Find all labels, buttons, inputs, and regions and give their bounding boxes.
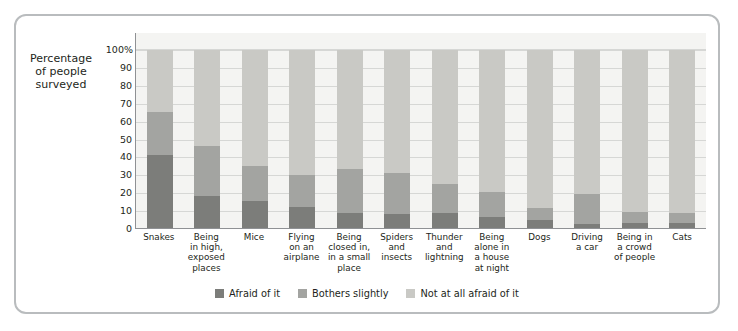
x-axis-label-mice: Mice [230,232,278,273]
y-axis-tick-labels: 100%9080706050403020100 [102,33,132,229]
stacked-bar[interactable] [669,50,695,228]
bar-segment [337,169,363,213]
bar-segment [147,50,173,112]
bar-segment [622,50,648,212]
bar-segment [242,201,268,228]
stacked-bar[interactable] [289,50,315,228]
bar-segment [384,214,410,228]
bar-segment [527,50,553,208]
stacked-bar[interactable] [527,50,553,228]
bar-segment [432,50,458,184]
y-axis-title-line-3: surveyed [22,78,100,91]
x-axis-label-line: in high, [184,242,230,252]
y-axis-tick-100pct: 100% [99,45,133,55]
stacked-bar[interactable] [384,50,410,228]
x-axis-label-driving-a-car: Drivinga car [563,232,611,273]
bar-segment [337,213,363,228]
x-axis-label-line: alone in [469,242,515,252]
bar-segment [384,173,410,214]
plot-wrapper: 100%9080706050403020100 [102,33,706,229]
legend-swatch-not-afraid [406,289,415,298]
bar-segment [289,175,315,207]
bar-segment [574,194,600,224]
stacked-bar[interactable] [194,50,220,228]
x-axis-label-line: Being [326,232,372,242]
y-axis-tick-30: 30 [102,170,132,180]
bar-segment [242,50,268,166]
bar-segment [289,50,315,175]
y-axis-tick-90: 90 [102,63,132,73]
bar-segment [527,208,553,220]
stacked-bar[interactable] [432,50,458,228]
x-axis-label-line: Snakes [136,232,182,242]
bar-slot [374,50,422,228]
bar-slot [184,50,232,228]
legend-item[interactable]: Bothers slightly [298,288,388,299]
bar-segment [574,224,600,228]
stacked-bar[interactable] [337,50,363,228]
x-axis-label-line: insects [374,252,420,262]
y-axis-tick-20: 20 [102,188,132,198]
bar-slot [516,50,564,228]
bar-slot [326,50,374,228]
x-axis-label-line: lightning [421,252,467,262]
bar-segment [622,223,648,228]
legend-label: Bothers slightly [312,288,388,299]
stacked-bar[interactable] [479,50,505,228]
bar-segment [242,166,268,202]
y-axis-title-line-1: Percentage [22,52,100,65]
bar-segment [337,50,363,169]
x-axis-label-being-alone-in-a-house-at-night: Beingalone ina houseat night [468,232,516,273]
stacked-bar[interactable] [574,50,600,228]
y-axis-tick-10: 10 [102,206,132,216]
chart-legend: Afraid of itBothers slightlyNot at all a… [16,288,718,299]
x-axis-label-line: Cats [659,232,705,242]
x-axis-label-line: Spiders [374,232,420,242]
x-axis-label-line: places [184,263,230,273]
legend-item[interactable]: Not at all afraid of it [406,288,518,299]
x-axis-category-labels: SnakesBeingin high,exposedplacesMiceFlyi… [135,232,706,273]
stacked-bar[interactable] [622,50,648,228]
x-axis-label-being-in-a-crowd-of-people: Being ina crowdof people [611,232,659,273]
x-axis-label-line: in a small [326,252,372,262]
x-axis-label-line: Flying [279,232,325,242]
x-axis-label-line: a crowd [612,242,658,252]
x-axis-label-flying-on-an-airplane: Flyingon anairplane [278,232,326,273]
bar-slot [564,50,612,228]
x-axis-label-dogs: Dogs [516,232,564,273]
x-axis-label-line: a house [469,252,515,262]
x-axis-label-line: and [421,242,467,252]
plot-area [135,33,706,229]
bar-segment [289,207,315,228]
bar-segment [384,50,410,173]
legend-swatch-afraid [215,289,224,298]
bar-slot [421,50,469,228]
bar-segment [669,223,695,228]
y-axis-title-line-2: of people [22,65,100,78]
bar-slot [279,50,327,228]
x-axis-label-line: Driving [564,232,610,242]
stacked-bar[interactable] [147,50,173,228]
legend-item[interactable]: Afraid of it [215,288,280,299]
bar-segment [194,196,220,228]
y-axis-tick-40: 40 [102,152,132,162]
y-axis-tick-60: 60 [102,117,132,127]
bar-segment [432,213,458,228]
bar-segment [479,192,505,217]
bar-slot [659,50,707,228]
plot-headroom [136,33,706,50]
bar-segment [479,50,505,192]
x-axis-label-line: Being in [612,232,658,242]
bar-segment [194,146,220,196]
bar-group [136,50,706,228]
x-axis-label-line: Dogs [517,232,563,242]
y-axis-tick-0: 0 [102,224,132,234]
x-axis-label-snakes: Snakes [135,232,183,273]
bar-segment [147,155,173,228]
bar-segment [622,212,648,223]
x-axis-label-line: at night [469,263,515,273]
stacked-bar[interactable] [242,50,268,228]
y-axis-tick-70: 70 [102,99,132,109]
x-axis-label-line: place [326,263,372,273]
y-axis-tick-80: 80 [102,81,132,91]
